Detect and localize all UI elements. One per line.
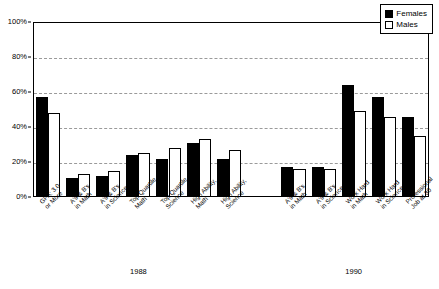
bar bbox=[36, 97, 48, 197]
y-axis-tick-label: 20% bbox=[12, 158, 27, 166]
y-axis-tick-mark bbox=[28, 57, 31, 58]
y-axis-tick-mark bbox=[28, 127, 31, 128]
y-axis-tick-mark bbox=[28, 92, 31, 93]
bars-layer bbox=[33, 22, 429, 197]
legend-label: Females bbox=[396, 10, 427, 18]
y-axis-tick-mark bbox=[28, 197, 31, 198]
legend-label: Males bbox=[396, 21, 417, 29]
x-axis-category-labels: GPA: 3.0or MoreA's & B'sin MathA's & B's… bbox=[33, 197, 429, 267]
y-axis-tick-label: 40% bbox=[12, 123, 27, 131]
x-axis-group-label: 1988 bbox=[130, 268, 147, 276]
legend-item: Females bbox=[385, 8, 427, 19]
legend-swatch-icon bbox=[385, 10, 393, 18]
bar bbox=[342, 85, 354, 197]
legend: FemalesMales bbox=[380, 4, 433, 34]
x-axis-group-label: 1990 bbox=[345, 268, 362, 276]
y-axis-tick-label: 60% bbox=[12, 88, 27, 96]
bar-chart-figure: 0%20%40%60%80%100% GPA: 3.0or MoreA's & … bbox=[0, 0, 439, 289]
y-axis: 0%20%40%60%80%100% bbox=[0, 22, 31, 197]
y-axis-tick-label: 0% bbox=[16, 193, 27, 201]
y-axis-tick-label: 80% bbox=[12, 53, 27, 61]
y-axis-tick-label: 100% bbox=[8, 18, 27, 26]
y-axis-tick-mark bbox=[28, 22, 31, 23]
legend-swatch-icon bbox=[385, 21, 393, 29]
bar bbox=[402, 117, 414, 198]
legend-item: Males bbox=[385, 19, 427, 30]
bar bbox=[372, 97, 384, 197]
y-axis-tick-mark bbox=[28, 162, 31, 163]
